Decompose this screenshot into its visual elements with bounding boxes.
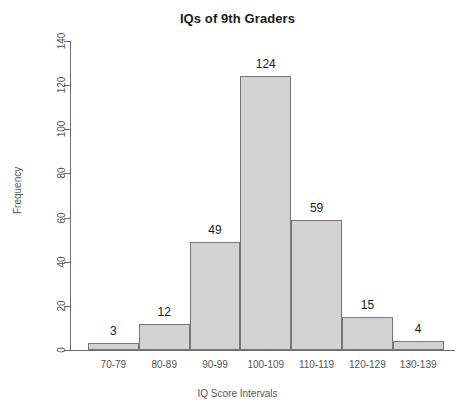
x-axis-line xyxy=(70,350,455,351)
bar-value-label: 124 xyxy=(240,57,291,71)
bar[interactable] xyxy=(139,324,190,350)
plot-area: 020406080100120140 3124912459154 70-7980… xyxy=(70,41,455,351)
bar-value-label: 4 xyxy=(393,322,444,336)
y-axis-tick-label: 120 xyxy=(57,77,67,94)
bar-value-label: 15 xyxy=(342,298,393,312)
y-axis-tick-label: 100 xyxy=(57,121,67,138)
y-axis-tick-label: 20 xyxy=(57,300,67,311)
page-title: IQs of 9th Graders xyxy=(0,11,475,26)
bar[interactable] xyxy=(240,76,291,350)
y-axis-title: Frequency xyxy=(12,150,34,230)
bar-value-label: 49 xyxy=(190,223,241,237)
y-axis-tick-label: 0 xyxy=(57,347,67,353)
bar-value-label: 3 xyxy=(88,324,139,338)
y-axis-tick-label: 80 xyxy=(57,168,67,179)
bar[interactable] xyxy=(342,317,393,350)
x-axis-title: IQ Score Intervals xyxy=(0,388,475,399)
y-axis-line xyxy=(70,41,71,351)
y-axis-tick-label: 60 xyxy=(57,212,67,223)
y-axis-tick-label: 40 xyxy=(57,256,67,267)
bar-value-label: 59 xyxy=(291,201,342,215)
bar[interactable] xyxy=(291,220,342,350)
bar[interactable] xyxy=(190,242,241,350)
x-axis-tick-label: 130-139 xyxy=(387,359,450,370)
y-axis-tick-label: 140 xyxy=(57,33,67,50)
bar[interactable] xyxy=(88,343,139,350)
histogram-figure: IQs of 9th Graders Frequency 02040608010… xyxy=(0,0,475,417)
bar-value-label: 12 xyxy=(139,305,190,319)
bar[interactable] xyxy=(393,341,444,350)
